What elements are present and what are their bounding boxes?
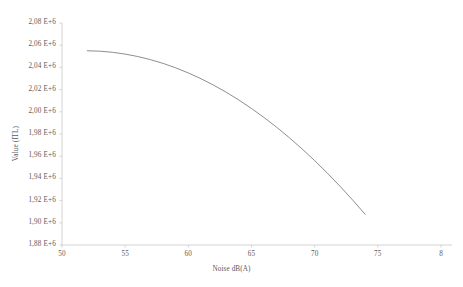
x-tick-label: 50	[42, 250, 82, 258]
y-tick-label: 1,92 E+6	[0, 196, 56, 204]
y-tick-label: 2,04 E+6	[0, 62, 56, 70]
y-tick-label: 1,90 E+6	[0, 218, 56, 226]
chart-container: 1,88 E+61,90 E+61,92 E+61,94 E+61,96 E+6…	[0, 0, 463, 287]
y-tick-label: 2,02 E+6	[0, 85, 56, 93]
y-tick-label: 1,94 E+6	[0, 173, 56, 181]
x-tick-label: 60	[168, 250, 208, 258]
chart-plot-area	[0, 0, 463, 287]
y-tick-label: 1,96 E+6	[0, 151, 56, 159]
data-series-line	[87, 51, 365, 215]
y-tick-label: 2,00 E+6	[0, 107, 56, 115]
axis-lines	[62, 23, 452, 245]
x-tick-label: 55	[105, 250, 145, 258]
x-tick-label: 8	[421, 250, 461, 258]
y-tick-label: 1,88 E+6	[0, 240, 56, 248]
y-tick-label: 1,98 E+6	[0, 129, 56, 137]
x-tick-label: 65	[232, 250, 272, 258]
y-tick-label: 2,08 E+6	[0, 18, 56, 26]
x-tick-label: 75	[358, 250, 398, 258]
y-tick-label: 2,06 E+6	[0, 40, 56, 48]
x-tick-label: 70	[295, 250, 335, 258]
x-axis-title: Noise dB(A)	[0, 265, 463, 273]
